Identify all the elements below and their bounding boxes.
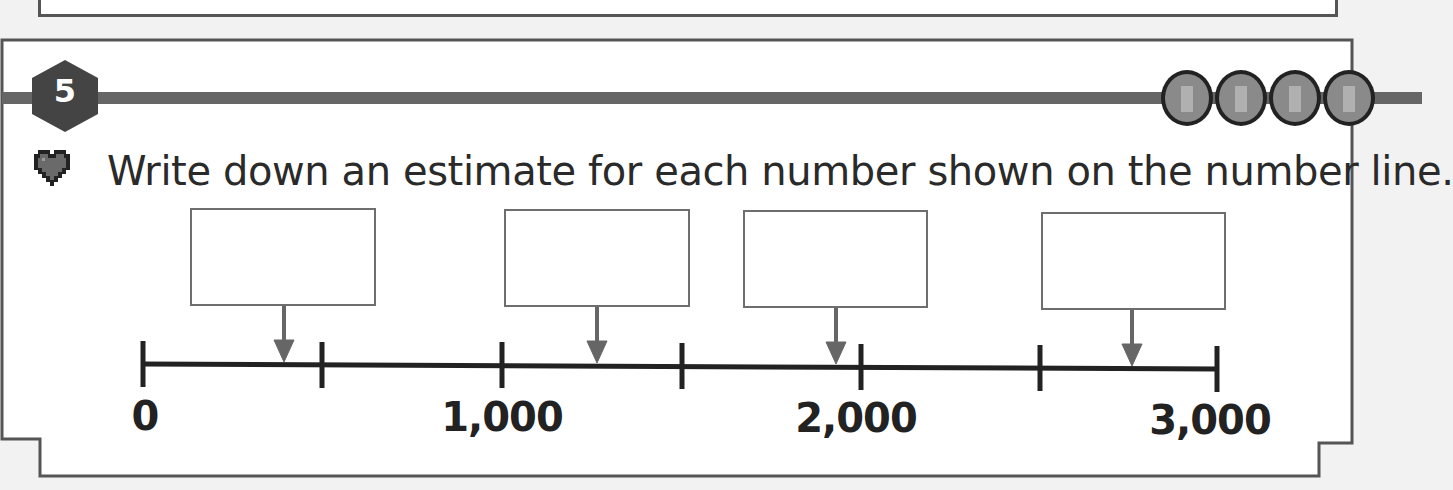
gem-icon (1269, 70, 1321, 126)
axis-label-1000: 1,000 (441, 394, 563, 440)
answer-box-c[interactable] (743, 210, 928, 308)
question-prompt: Write down an estimate for each number s… (107, 148, 1453, 194)
gem-icon (1323, 70, 1375, 126)
axis-label-0: 0 (132, 393, 159, 439)
question-number: 5 (40, 72, 90, 110)
answer-box-b[interactable] (504, 209, 690, 307)
axis-label-3000: 3,000 (1149, 397, 1271, 443)
gem-icon (1215, 70, 1267, 126)
answer-box-a[interactable] (190, 208, 376, 306)
axis-label-2000: 2,000 (795, 395, 917, 441)
gem-icon (1161, 70, 1213, 126)
answer-box-d[interactable] (1041, 212, 1226, 310)
